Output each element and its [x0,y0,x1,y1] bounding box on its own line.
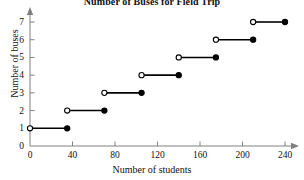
x-tick-label: 160 [193,150,207,160]
y-tick-label: 5 [6,52,24,62]
x-tick-label: 80 [110,150,120,160]
y-tick-label: 4 [6,70,24,80]
y-tick-label: 2 [6,106,24,116]
closed-endpoint-marker [65,126,70,131]
open-endpoint-marker [139,73,144,78]
x-tick-label: 120 [150,150,164,160]
open-endpoint-marker [102,90,107,95]
closed-endpoint-marker [213,55,218,60]
x-axis-title: Number of students [0,164,304,175]
closed-endpoint-marker [251,37,256,42]
open-endpoint-marker [176,55,181,60]
x-tick-label: 0 [28,150,33,160]
step-chart: Number of Buses for Field Trip Number of… [0,0,304,180]
open-endpoint-marker [27,126,32,131]
y-tick-label: 7 [6,17,24,27]
x-tick-label: 240 [278,150,292,160]
y-tick-label: 3 [6,88,24,98]
closed-endpoint-marker [176,73,181,78]
open-endpoint-marker [251,19,256,24]
closed-endpoint-marker [282,19,287,24]
closed-endpoint-marker [139,90,144,95]
open-endpoint-marker [65,108,70,113]
y-tick-label: 1 [6,123,24,133]
open-endpoint-marker [213,37,218,42]
x-tick-label: 200 [235,150,249,160]
x-tick-label: 40 [68,150,78,160]
closed-endpoint-marker [102,108,107,113]
y-tick-label: 6 [6,35,24,45]
y-tick-label: 0 [6,141,24,151]
